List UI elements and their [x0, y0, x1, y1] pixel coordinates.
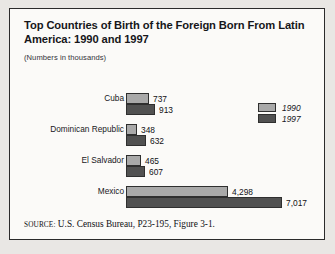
bar-group-cuba: Cuba 737 913 — [10, 93, 326, 124]
bar-dominican-republic-1990 — [126, 124, 137, 135]
bar-dominican-republic-1997 — [126, 135, 146, 146]
bar-el-salvador-1990 — [126, 155, 141, 166]
bar-el-salvador-1997 — [126, 166, 145, 177]
plot-area: Cuba 737 913 Dominican Republic 348 — [10, 93, 326, 217]
category-label-cuba: Cuba — [4, 93, 124, 103]
chart-subtitle: (Numbers in thousands) — [24, 53, 310, 62]
source-text: U.S. Census Bureau, P23-195, Figure 3-1. — [58, 219, 215, 229]
bar-value-el-salvador-1990: 465 — [145, 156, 159, 166]
bar-value-mexico-1997: 7,017 — [286, 198, 307, 208]
bar-group-el-salvador: El Salvador 465 607 — [10, 155, 326, 186]
chart-title: Top Countries of Birth of the Foreign Bo… — [24, 19, 310, 46]
category-label-dominican-republic: Dominican Republic — [4, 124, 124, 134]
title-block: Top Countries of Birth of the Foreign Bo… — [24, 19, 310, 62]
bar-group-mexico: Mexico 4,298 7,017 — [10, 186, 326, 217]
bar-mexico-1997 — [126, 197, 282, 208]
figure-frame: Top Countries of Birth of the Foreign Bo… — [9, 8, 325, 240]
bar-value-dominican-republic-1990: 348 — [141, 125, 155, 135]
bar-cuba-1997 — [126, 104, 155, 115]
source-label: SOURCE: — [24, 220, 56, 229]
category-label-mexico: Mexico — [4, 186, 124, 196]
bar-value-cuba-1990: 737 — [153, 94, 167, 104]
bar-mexico-1990 — [126, 186, 228, 197]
bar-value-mexico-1990: 4,298 — [232, 187, 253, 197]
bar-value-dominican-republic-1997: 632 — [150, 136, 164, 146]
bar-value-el-salvador-1997: 607 — [149, 167, 163, 177]
bar-value-cuba-1997: 913 — [159, 105, 173, 115]
category-label-el-salvador: El Salvador — [4, 155, 124, 165]
source-note: SOURCE: U.S. Census Bureau, P23-195, Fig… — [24, 219, 215, 229]
bar-cuba-1990 — [126, 93, 149, 104]
bar-group-dominican-republic: Dominican Republic 348 632 — [10, 124, 326, 155]
